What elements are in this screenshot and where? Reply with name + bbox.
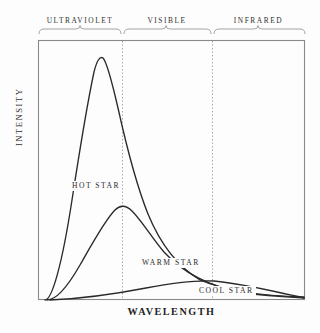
curve-label-cool-star: COOL STAR [197,286,256,296]
band-bracket-infrared [214,26,305,35]
plot-canvas [0,0,320,333]
curve-label-hot-star: HOT STAR [70,181,122,191]
curve-cool-star [50,281,304,300]
band-bracket-ultraviolet [39,26,121,35]
band-brackets [39,26,305,35]
band-bracket-visible [124,26,211,35]
curve-label-warm-star: WARM STAR [140,258,202,268]
curve-warm-star [47,206,304,300]
x-axis-title: WAVELENGTH [38,306,305,317]
y-axis-title: INTENSITY [14,88,24,146]
blackbody-spectrum-figure: ULTRAVIOLET VISIBLE INFRARED HOT STAR WA… [0,0,320,333]
